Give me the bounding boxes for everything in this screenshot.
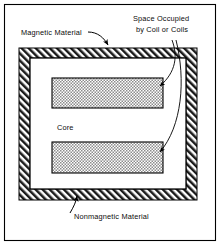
label-magnetic-material: Magnetic Material [21, 28, 82, 37]
coil-space-lower [52, 142, 163, 173]
label-core: Core [57, 123, 74, 132]
coil-space-upper [52, 78, 163, 108]
figure-diagram: Magnetic Material Space Occupied by Coil… [0, 0, 220, 245]
label-space-occupied-line1: Space Occupied [133, 14, 189, 23]
leader-magnetic-material [88, 32, 108, 45]
diagram-canvas: Magnetic Material Space Occupied by Coil… [0, 0, 220, 245]
label-nonmagnetic-material: Nonmagnetic Material [74, 212, 149, 221]
label-space-occupied-line2: by Coil or Coils [136, 25, 188, 34]
